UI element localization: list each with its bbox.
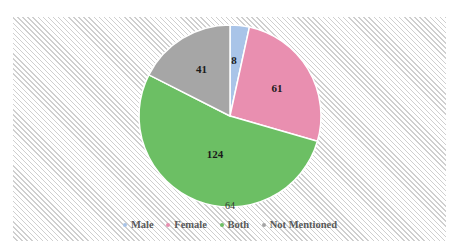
- legend-item-female: Female: [166, 219, 207, 230]
- data-label-not-mentioned: 41: [196, 63, 207, 75]
- legend-item-not-mentioned: Not Mentioned: [262, 219, 337, 230]
- legend-swatch-icon: [262, 223, 266, 227]
- legend-swatch-icon: [123, 223, 127, 227]
- stray-annotation: 64: [225, 200, 235, 211]
- legend-item-male: Male: [123, 219, 154, 230]
- data-label-male: 8: [231, 54, 237, 66]
- data-label-female: 61: [271, 82, 282, 94]
- data-label-both: 124: [207, 148, 224, 160]
- pie-slices: [139, 25, 321, 207]
- legend-item-both: Both: [220, 219, 250, 230]
- pie-chart: 86112441 64: [0, 0, 460, 252]
- legend-swatch-icon: [220, 223, 224, 227]
- legend: Male Female Both Not Mentioned: [0, 219, 460, 230]
- legend-swatch-icon: [166, 223, 170, 227]
